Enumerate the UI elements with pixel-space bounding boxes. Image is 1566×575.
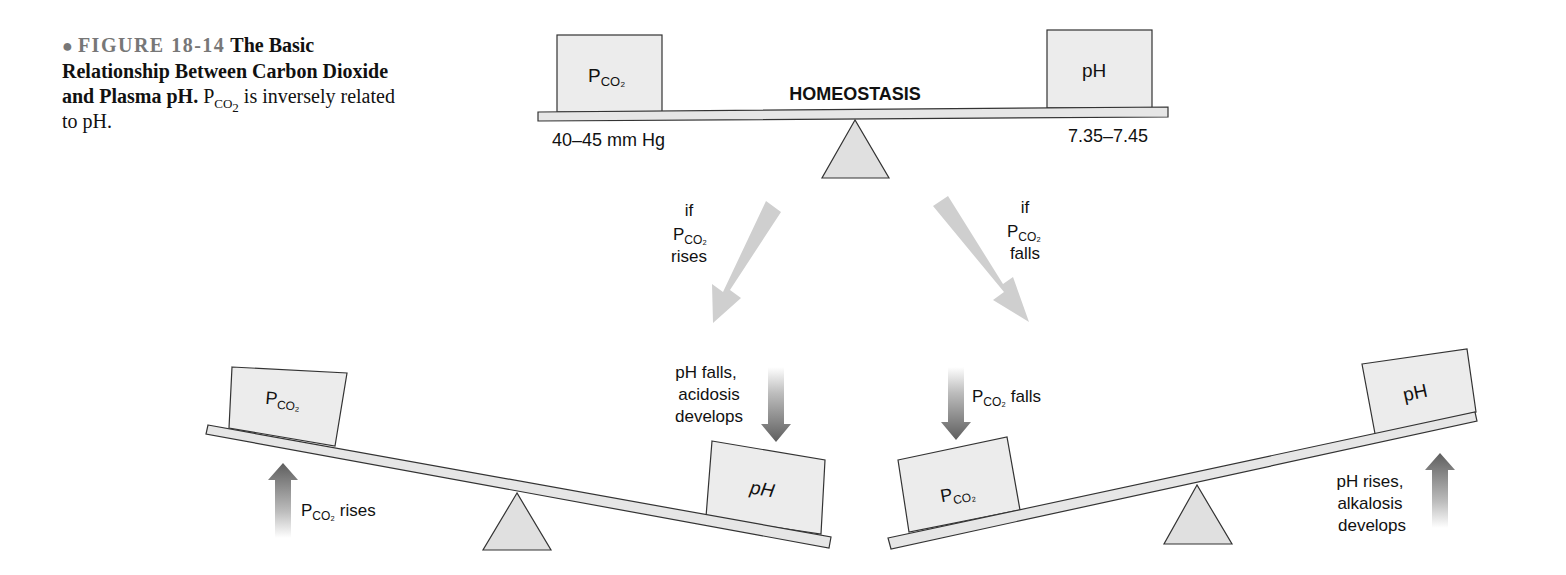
branch-right-label-if: if [1021, 198, 1030, 217]
acidosis-label-line3: develops [675, 407, 743, 426]
seesaw-diagram: PCO₂ pH HOMEOSTASIS 40–45 mm Hg 7.35–7.4… [0, 0, 1566, 575]
branch-arrow-right: if PCO₂ falls [933, 196, 1041, 322]
top-seesaw: PCO₂ pH HOMEOSTASIS 40–45 mm Hg 7.35–7.4… [538, 30, 1168, 178]
pco2-falls-label: PCO₂ falls [972, 387, 1041, 409]
fulcrum-icon [483, 493, 551, 550]
branch-arrow-left: if PCO₂ rises [671, 201, 781, 323]
alkalosis-label-line3: develops [1338, 516, 1406, 535]
arrow-up-icon [1425, 453, 1455, 528]
acidosis-label-line1: pH falls, [675, 363, 736, 382]
branch-left-label-if: if [685, 201, 694, 220]
arrow-down-icon [761, 367, 791, 442]
ph-box-label: pH [1082, 60, 1106, 81]
alkalosis-seesaw: PCO₂ pH PCO₂ falls pH rises, alkalosis d… [888, 349, 1477, 549]
ph-normal-range: 7.35–7.45 [1068, 126, 1148, 146]
acidosis-label-line2: acidosis [678, 385, 739, 404]
arrow-up-icon [268, 463, 298, 538]
branch-left-label-pco2: PCO₂ [673, 225, 707, 247]
branch-right-label-falls: falls [1010, 244, 1040, 263]
branch-left-label-rises: rises [671, 247, 707, 266]
acidosis-seesaw: PCO₂ pH PCO₂ rises pH falls, acidosis de… [206, 363, 831, 550]
ph-box-lowered-label: pH [748, 477, 777, 502]
diagonal-arrow-down-left-icon [712, 201, 781, 323]
fulcrum-icon [822, 120, 889, 178]
pco2-rises-label: PCO₂ rises [301, 501, 376, 523]
branch-right-label-pco2: PCO₂ [1007, 222, 1041, 244]
alkalosis-label-line1: pH rises, [1336, 472, 1403, 491]
homeostasis-label: HOMEOSTASIS [789, 84, 921, 104]
arrow-down-icon [941, 367, 971, 440]
pco2-normal-range: 40–45 mm Hg [552, 130, 665, 150]
fulcrum-icon [1164, 485, 1232, 544]
alkalosis-label-line2: alkalosis [1337, 494, 1402, 513]
